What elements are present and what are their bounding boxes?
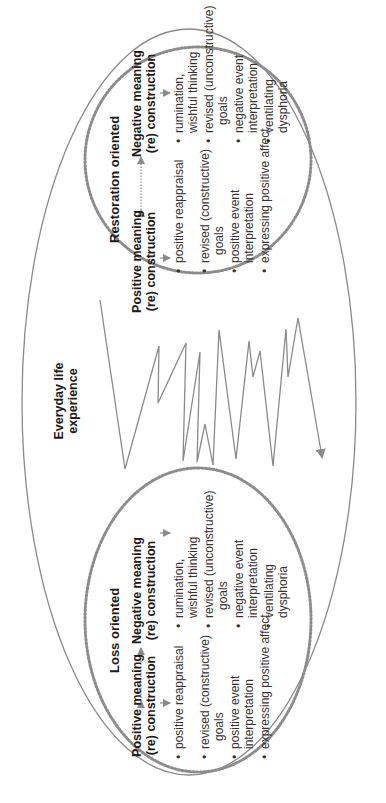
bullet-icon: • bbox=[258, 749, 272, 759]
list-item: •expressing positive affect bbox=[258, 128, 272, 273]
loss-negative-items: •rumination, wishful thinking •revised (… bbox=[172, 491, 290, 628]
list-item: •ventilating bbox=[262, 6, 276, 143]
list-item: •positive event bbox=[228, 614, 242, 759]
item-text: negative event bbox=[232, 540, 246, 618]
oscillation-zigzag-arrow bbox=[100, 300, 322, 469]
item-text: revised (constructive) bbox=[198, 635, 212, 749]
list-item-cont: goals bbox=[212, 614, 226, 759]
list-item-cont: dysphoria bbox=[276, 491, 290, 628]
item-text: positive event bbox=[228, 190, 242, 263]
bullet-icon: • bbox=[262, 133, 276, 143]
loss-oriented-title: Loss oriented bbox=[107, 588, 122, 673]
list-item: •revised (unconstructive) bbox=[202, 6, 216, 143]
list-item-cont: interpretation bbox=[246, 491, 260, 628]
restoration-negative-heading: Negative meaning (re) construction bbox=[130, 46, 158, 161]
list-item: •positive event bbox=[228, 128, 242, 273]
center-label-line-2: experience bbox=[66, 351, 80, 451]
list-item-cont: goals bbox=[212, 128, 226, 273]
item-text: expressing positive affect bbox=[258, 614, 272, 749]
list-item: •positive reappraisal bbox=[172, 614, 186, 759]
heading-line: Positive meaning bbox=[130, 204, 144, 319]
list-item: •negative event bbox=[232, 6, 246, 143]
bullet-icon: • bbox=[228, 263, 242, 273]
list-item-cont: wishful thinking bbox=[186, 491, 200, 628]
heading-line: Negative meaning bbox=[130, 46, 144, 161]
item-text: rumination, bbox=[172, 559, 186, 618]
bullet-icon: • bbox=[172, 133, 186, 143]
bullet-icon: • bbox=[202, 618, 216, 628]
list-item: •revised (constructive) bbox=[198, 128, 212, 273]
item-text: ventilating bbox=[262, 79, 276, 133]
item-text: negative event bbox=[232, 55, 246, 133]
bullet-icon: • bbox=[198, 749, 212, 759]
heading-line: (re) construction bbox=[144, 648, 158, 763]
list-item-cont: goals bbox=[216, 491, 230, 628]
list-item: •positive reappraisal bbox=[172, 128, 186, 273]
list-item-cont: interpretation bbox=[242, 614, 256, 759]
bullet-icon: • bbox=[232, 133, 246, 143]
item-text: rumination, bbox=[172, 74, 186, 133]
item-text: revised (unconstructive) bbox=[202, 491, 216, 618]
list-item: •expressing positive affect bbox=[258, 614, 272, 759]
bullet-icon: • bbox=[198, 263, 212, 273]
heading-line: (re) construction bbox=[144, 533, 158, 648]
bullet-icon: • bbox=[258, 263, 272, 273]
bullet-icon: • bbox=[172, 749, 186, 759]
bullet-icon: • bbox=[172, 618, 186, 628]
restoration-negative-items: •rumination, wishful thinking •revised (… bbox=[172, 6, 290, 143]
item-text: revised (constructive) bbox=[198, 149, 212, 263]
bullet-icon: • bbox=[262, 618, 276, 628]
item-text: ventilating bbox=[262, 564, 276, 618]
loss-positive-heading: Positive meaning (re) construction bbox=[130, 648, 158, 763]
dual-process-diagram: Everyday life experience Loss oriented P… bbox=[0, 0, 386, 803]
restoration-positive-items: •positive reappraisal •revised (construc… bbox=[172, 128, 272, 273]
list-item: •negative event bbox=[232, 491, 246, 628]
list-item: •rumination, bbox=[172, 491, 186, 628]
item-text: positive event bbox=[228, 676, 242, 749]
list-item: •revised (unconstructive) bbox=[202, 491, 216, 628]
bullet-icon: • bbox=[232, 618, 246, 628]
list-item-cont: wishful thinking bbox=[186, 6, 200, 143]
bullet-icon: • bbox=[202, 133, 216, 143]
heading-line: (re) construction bbox=[144, 46, 158, 161]
restoration-oriented-title: Restoration oriented bbox=[107, 116, 122, 243]
heading-line: Negative meaning bbox=[130, 533, 144, 648]
item-text: positive reappraisal bbox=[172, 160, 186, 263]
list-item: •revised (constructive) bbox=[198, 614, 212, 759]
list-item-cont: interpretation bbox=[246, 6, 260, 143]
bullet-icon: • bbox=[228, 749, 242, 759]
restoration-positive-heading: Positive meaning (re) construction bbox=[130, 204, 158, 319]
bullet-icon: • bbox=[172, 263, 186, 273]
list-item-cont: dysphoria bbox=[276, 6, 290, 143]
list-item-cont: goals bbox=[216, 6, 230, 143]
center-label-line-1: Everyday life bbox=[52, 351, 66, 451]
everyday-life-label: Everyday life experience bbox=[52, 351, 80, 451]
heading-line: (re) construction bbox=[144, 204, 158, 319]
item-text: expressing positive affect bbox=[258, 128, 272, 263]
list-item: •rumination, bbox=[172, 6, 186, 143]
loss-negative-heading: Negative meaning (re) construction bbox=[130, 533, 158, 648]
loss-positive-items: •positive reappraisal •revised (construc… bbox=[172, 614, 272, 759]
heading-line: Positive meaning bbox=[130, 648, 144, 763]
list-item: •ventilating bbox=[262, 491, 276, 628]
item-text: positive reappraisal bbox=[172, 646, 186, 749]
item-text: revised (unconstructive) bbox=[202, 6, 216, 133]
list-item-cont: interpretation bbox=[242, 128, 256, 273]
